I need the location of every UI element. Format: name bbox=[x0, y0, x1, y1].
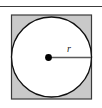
geometry-figure: r bbox=[0, 0, 102, 108]
center-point-dot bbox=[45, 54, 52, 61]
circle-in-square-diagram: r bbox=[0, 0, 102, 108]
radius-label: r bbox=[67, 43, 71, 54]
